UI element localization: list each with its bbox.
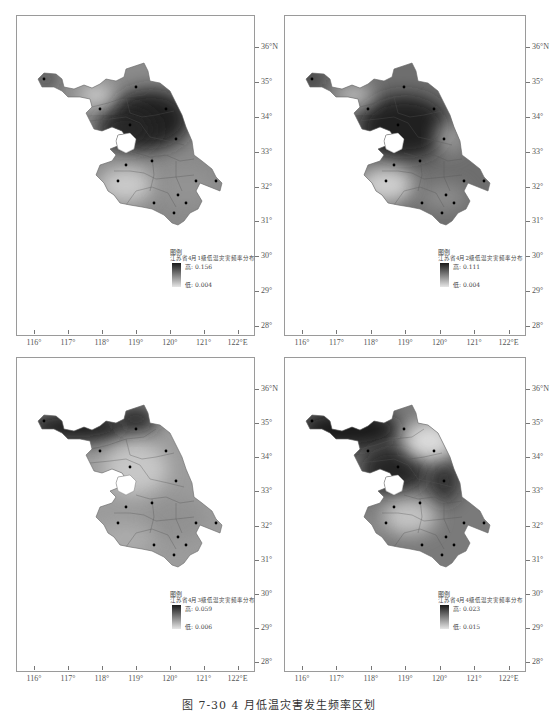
station-dot [129,124,132,127]
station-dot [125,506,128,509]
station-dot [135,86,138,89]
station-dot [43,78,46,81]
station-dot [367,108,370,111]
legend-low-label: 低: 0.004 [453,281,480,288]
jiangsu-frequency-map [294,57,494,237]
latitude-label: 31° [532,216,543,225]
longitude-label: 120° [162,674,177,683]
station-dot [99,450,102,453]
longitude-tick [509,666,510,670]
longitude-tick [238,330,239,334]
latitude-label: 31° [261,555,272,564]
longitude-label: 120° [432,338,447,347]
station-dot [393,164,396,167]
latitude-label: 30° [261,251,272,260]
latitude-label: 30° [532,589,543,598]
station-dot [483,522,486,525]
latitude-label: 33° [261,147,272,156]
latitude-label: 34° [261,112,272,121]
station-dot [195,180,198,183]
station-dot [43,420,46,423]
longitude-label: 122°E [228,674,248,683]
legend-high-label: 高: 0.023 [453,605,480,612]
legend-high-label: 高: 0.059 [185,605,212,612]
latitude-label: 29° [261,623,272,632]
station-dot [433,450,436,453]
map-legend: 图例江苏省4月2级低温灾害频率分布高: 0.111低: 0.004 [438,248,528,298]
station-dot [433,108,436,111]
station-dot [397,466,400,469]
longitude-tick [102,330,103,334]
longitude-label: 116° [295,338,310,347]
station-dot [397,124,400,127]
station-dot [153,544,156,547]
station-dot [393,506,396,509]
legend-color-ramp [440,605,449,629]
latitude-label: 30° [532,251,543,260]
jiangsu-frequency-map [294,399,494,579]
latitude-label: 36°N [261,384,278,393]
station-dot [385,522,388,525]
station-dot [445,194,448,197]
longitude-label: 116° [27,674,42,683]
latitude-label: 33° [532,147,543,156]
legend-color-ramp [440,263,449,287]
legend-subtitle: 江苏省4月1级低温灾害频率分布 [170,255,260,262]
legend-high-label: 高: 0.111 [453,263,480,270]
longitude-label: 117° [60,338,75,347]
longitude-tick [170,330,171,334]
latitude-label: 33° [532,486,543,495]
longitude-label: 117° [329,338,344,347]
station-dot [117,180,120,183]
station-dot [419,502,422,505]
station-dot [117,522,120,525]
station-dot [421,544,424,547]
station-dot [483,180,486,183]
station-dot [177,194,180,197]
station-dot [311,78,314,81]
latitude-label: 28° [532,321,543,330]
longitude-tick [34,666,35,670]
longitude-label: 118° [94,338,109,347]
longitude-label: 118° [363,338,378,347]
legend-low-label: 低: 0.015 [453,623,480,630]
latitude-label: 28° [261,657,272,666]
longitude-label: 120° [162,338,177,347]
station-dot [185,544,188,547]
longitude-label: 121° [467,674,482,683]
station-dot [421,202,424,205]
station-dot [173,554,176,557]
station-dot [441,554,444,557]
longitude-tick [204,330,205,334]
longitude-label: 117° [60,674,75,683]
longitude-tick [68,330,69,334]
station-dot [215,180,218,183]
jiangsu-frequency-map [26,399,226,579]
latitude-label: 31° [532,555,543,564]
legend-high-label: 高: 0.156 [185,263,212,270]
latitude-label: 29° [532,286,543,295]
latitude-label: 32° [532,521,543,530]
longitude-tick [474,330,475,334]
longitude-label: 118° [94,674,109,683]
longitude-label: 121° [467,338,482,347]
legend-subtitle: 江苏省4月4级低温灾害频率分布 [438,597,528,604]
latitude-label: 33° [261,486,272,495]
station-dot [153,202,156,205]
latitude-label: 31° [261,216,272,225]
map-legend: 图例江苏省4月3级低温灾害频率分布高: 0.059低: 0.006 [170,590,260,640]
longitude-tick [204,666,205,670]
longitude-label: 121° [196,674,211,683]
latitude-label: 34° [532,452,543,461]
latitude-label: 28° [261,321,272,330]
latitude-label: 35° [532,418,543,427]
latitude-label: 32° [261,521,272,530]
longitude-tick [405,330,406,334]
latitude-label: 36°N [532,42,549,51]
longitude-label: 122°E [499,338,519,347]
legend-subtitle: 江苏省4月2级低温灾害频率分布 [438,255,528,262]
legend-subtitle: 江苏省4月3级低温灾害频率分布 [170,597,260,604]
station-dot [165,108,168,111]
longitude-label: 122°E [228,338,248,347]
longitude-tick [102,666,103,670]
